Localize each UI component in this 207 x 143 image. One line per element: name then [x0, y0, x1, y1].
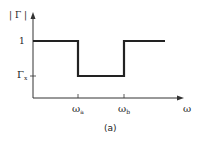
y-axis-arrow-icon: [31, 12, 36, 19]
y-tick-label-one: 1: [19, 36, 25, 46]
diagram-canvas: [0, 0, 207, 143]
x-tick-label-omega-a: ωa: [72, 104, 84, 117]
x-axis-label: ω: [183, 104, 191, 114]
figure-caption: (a): [104, 123, 117, 133]
y-tick-label-gamma-x: Γx: [17, 70, 27, 83]
x-axis-arrow-icon: [177, 96, 184, 101]
gamma-curve: [33, 41, 165, 76]
y-axis-label: | Γ |: [9, 10, 27, 20]
x-tick-label-omega-b: ωb: [118, 104, 130, 117]
